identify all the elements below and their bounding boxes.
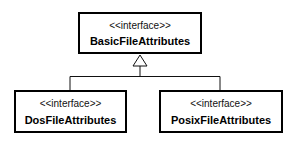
node-dos-file-attributes[interactable]: <<interface>> DosFileAttributes — [15, 91, 126, 132]
node-box — [79, 13, 201, 53]
node-name: PosixFileAttributes — [171, 114, 271, 126]
node-name: BasicFileAttributes — [90, 35, 190, 47]
uml-diagram: <<interface>> BasicFileAttributes <<inte… — [0, 0, 294, 143]
node-stereotype: <<interface>> — [109, 20, 171, 31]
node-name: DosFileAttributes — [25, 114, 117, 126]
connector-branch — [70, 77, 220, 92]
node-stereotype: <<interface>> — [190, 98, 252, 109]
generalization-arrow-icon — [133, 55, 147, 66]
node-basic-file-attributes[interactable]: <<interface>> BasicFileAttributes — [79, 13, 201, 53]
node-posix-file-attributes[interactable]: <<interface>> PosixFileAttributes — [160, 91, 282, 132]
inheritance-connectors — [70, 55, 220, 91]
node-stereotype: <<interface>> — [40, 98, 102, 109]
